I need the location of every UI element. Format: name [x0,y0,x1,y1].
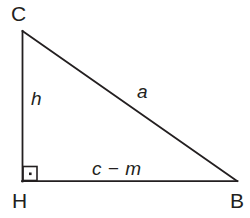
triangle-figure [0,0,250,218]
vertex-label-c: C [11,3,26,24]
side-label-height-h: h [31,89,42,108]
side-label-hypotenuse-a: a [137,82,148,101]
vertex-label-b: B [230,190,244,211]
right-angle-dot-icon [29,173,32,176]
side-label-base-c-minus-m: c − m [92,159,141,178]
vertex-label-h: H [12,190,27,211]
geometry-diagram: C H B h a c − m [0,0,250,218]
